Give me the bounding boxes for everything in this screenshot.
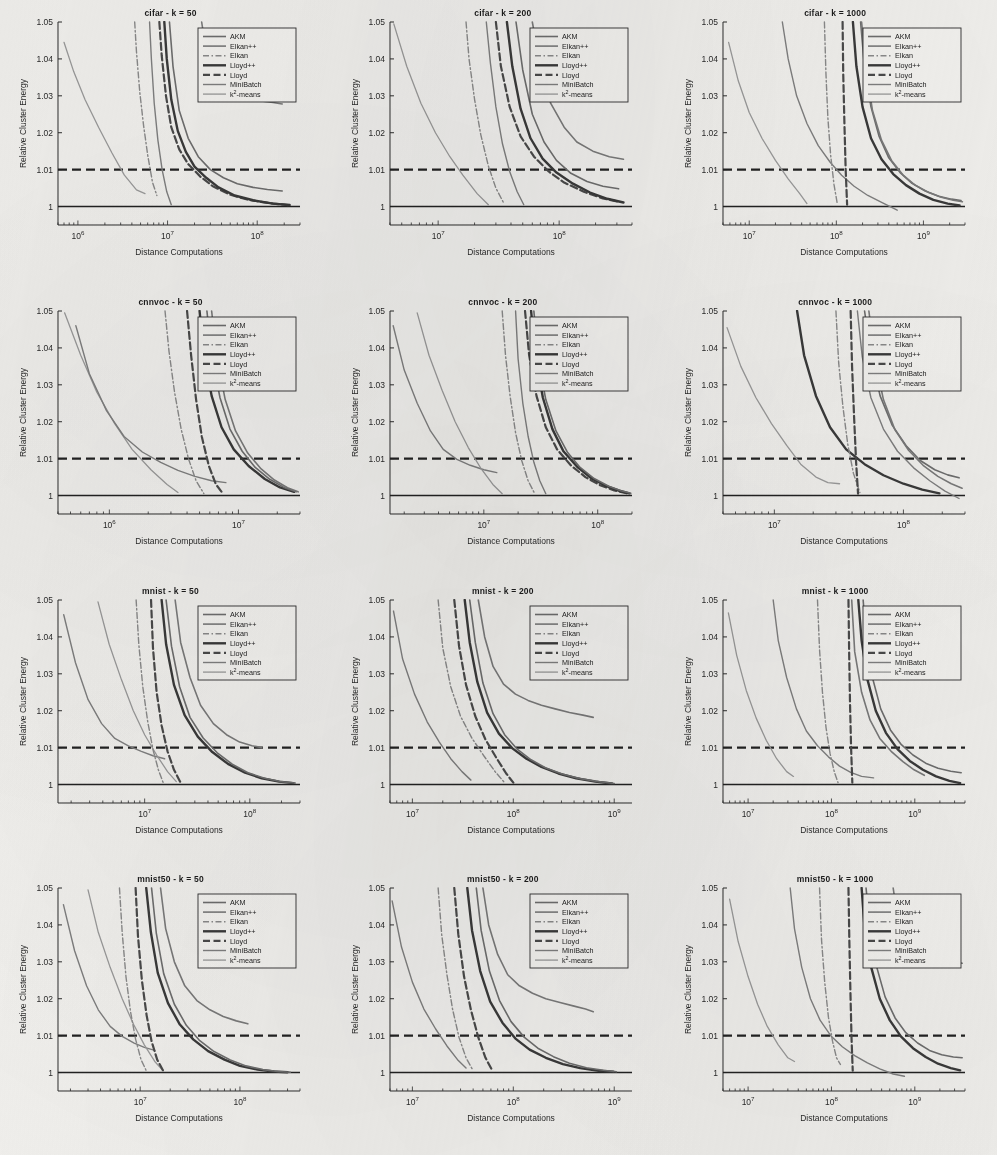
series-line: [727, 327, 840, 483]
legend-label: Elkan++: [230, 42, 256, 51]
svg-text:107: 107: [741, 807, 754, 819]
svg-text:1.05: 1.05: [701, 883, 718, 893]
legend-label: Lloyd: [230, 937, 247, 946]
svg-text:1.03: 1.03: [701, 91, 718, 101]
legend: AKMElkan++ElkanLloyd++LloydMiniBatchk2-m…: [198, 606, 296, 680]
legend-label: Elkan++: [562, 42, 588, 51]
svg-text:108: 108: [233, 1096, 246, 1108]
svg-text:1.01: 1.01: [369, 742, 386, 752]
svg-text:108: 108: [592, 518, 605, 530]
legend-label: Elkan++: [230, 908, 256, 917]
svg-text:1.04: 1.04: [701, 920, 718, 930]
legend: AKMElkan++ElkanLloyd++LloydMiniBatchk2-m…: [863, 606, 961, 680]
legend-label: AKM: [895, 32, 911, 41]
svg-text:1.02: 1.02: [369, 994, 386, 1004]
svg-text:109: 109: [608, 807, 621, 819]
svg-text:1.01: 1.01: [36, 1031, 53, 1041]
figure-panel-grid: 11.011.021.031.041.05106107108Relative C…: [0, 0, 997, 1155]
legend-label: Lloyd: [562, 937, 579, 946]
panel-title: mnist50 - k = 50: [58, 874, 283, 884]
y-axis-label: Relative Cluster Energy: [683, 78, 693, 168]
panel-title: cnnvoc - k = 50: [58, 297, 283, 307]
svg-text:107: 107: [232, 518, 245, 530]
svg-text:1.01: 1.01: [701, 742, 718, 752]
svg-text:107: 107: [138, 807, 151, 819]
legend-label: Elkan: [562, 629, 580, 638]
svg-text:1.03: 1.03: [369, 91, 386, 101]
y-axis-label: Relative Cluster Energy: [18, 367, 28, 457]
chart-panel: 11.011.021.031.041.05107108109Relative C…: [665, 578, 997, 867]
svg-text:109: 109: [917, 229, 930, 241]
svg-text:1.02: 1.02: [36, 994, 53, 1004]
chart-panel: 11.011.021.031.041.05107108109Relative C…: [665, 866, 997, 1155]
svg-text:108: 108: [243, 807, 256, 819]
x-axis-label: Distance Computations: [135, 824, 223, 834]
svg-text:1.05: 1.05: [369, 883, 386, 893]
x-axis-label: Distance Computations: [800, 824, 888, 834]
x-axis-label: Distance Computations: [135, 1113, 223, 1123]
x-axis-ticks: 107108109: [723, 798, 965, 818]
legend-label: MiniBatch: [562, 947, 594, 956]
series-line: [773, 600, 873, 778]
svg-text:1.05: 1.05: [36, 595, 53, 605]
y-axis-label: Relative Cluster Energy: [18, 944, 28, 1034]
panel-title: mnist - k = 200: [390, 586, 615, 596]
y-axis-label: Relative Cluster Energy: [18, 78, 28, 168]
legend-label: Lloyd++: [895, 350, 921, 359]
legend-label: Lloyd++: [895, 927, 921, 936]
panel-title: cnnvoc - k = 1000: [723, 297, 948, 307]
y-axis-label: Relative Cluster Energy: [350, 944, 360, 1034]
svg-text:1.04: 1.04: [36, 920, 53, 930]
svg-text:1: 1: [713, 779, 718, 789]
svg-text:1.04: 1.04: [369, 343, 386, 353]
series-line: [418, 313, 503, 494]
legend-label: MiniBatch: [562, 658, 594, 667]
legend-label: Elkan++: [562, 331, 588, 340]
chart-panel: 11.011.021.031.041.05107108Relative Clus…: [665, 289, 997, 578]
svg-text:107: 107: [432, 229, 445, 241]
legend: AKMElkan++ElkanLloyd++LloydMiniBatchk2-m…: [863, 894, 961, 968]
chart-panel: 11.011.021.031.041.05107108Relative Clus…: [332, 289, 664, 578]
legend-label: Lloyd: [895, 359, 912, 368]
chart-panel: 11.011.021.031.041.05107108Relative Clus…: [0, 866, 332, 1155]
x-axis-ticks: 106107108: [58, 220, 300, 240]
svg-text:1.02: 1.02: [369, 705, 386, 715]
series-line: [392, 901, 466, 1068]
svg-text:1.03: 1.03: [369, 380, 386, 390]
legend-label: Lloyd++: [230, 639, 256, 648]
x-axis-ticks: 107108109: [390, 1087, 621, 1108]
svg-text:1.01: 1.01: [36, 165, 53, 175]
svg-text:1.02: 1.02: [36, 128, 53, 138]
x-axis-label: Distance Computations: [467, 1113, 555, 1123]
legend-label: AKM: [230, 321, 246, 330]
x-axis-label: Distance Computations: [135, 247, 223, 257]
panel-title: cifar - k = 50: [58, 8, 283, 18]
legend-label: AKM: [895, 321, 911, 330]
legend-label: AKM: [562, 610, 578, 619]
legend-label: Lloyd++: [562, 61, 588, 70]
chart-panel: 11.011.021.031.041.05107108Relative Clus…: [0, 578, 332, 867]
panel-title: cifar - k = 1000: [723, 8, 948, 18]
legend-label: MiniBatch: [895, 947, 927, 956]
svg-text:1.03: 1.03: [36, 380, 53, 390]
legend-label: MiniBatch: [562, 80, 594, 89]
legend-label: AKM: [230, 899, 246, 908]
legend-label: Lloyd++: [562, 639, 588, 648]
legend-label: AKM: [562, 899, 578, 908]
legend: AKMElkan++ElkanLloyd++LloydMiniBatchk2-m…: [530, 606, 628, 680]
series-line: [136, 600, 163, 783]
svg-text:1.01: 1.01: [701, 1031, 718, 1041]
x-axis-label: Distance Computations: [800, 1113, 888, 1123]
svg-text:107: 107: [478, 518, 491, 530]
x-axis-ticks: 107108: [723, 509, 965, 529]
chart-panel: 11.011.021.031.041.05107108Relative Clus…: [332, 0, 664, 289]
legend-label: Lloyd: [895, 648, 912, 657]
legend-label: Elkan: [230, 52, 248, 61]
svg-text:107: 107: [406, 1096, 419, 1108]
svg-text:1.03: 1.03: [369, 668, 386, 678]
svg-text:1.02: 1.02: [36, 416, 53, 426]
svg-text:1.02: 1.02: [369, 128, 386, 138]
svg-text:1.03: 1.03: [701, 668, 718, 678]
svg-text:109: 109: [608, 1096, 621, 1108]
svg-text:1.01: 1.01: [36, 453, 53, 463]
